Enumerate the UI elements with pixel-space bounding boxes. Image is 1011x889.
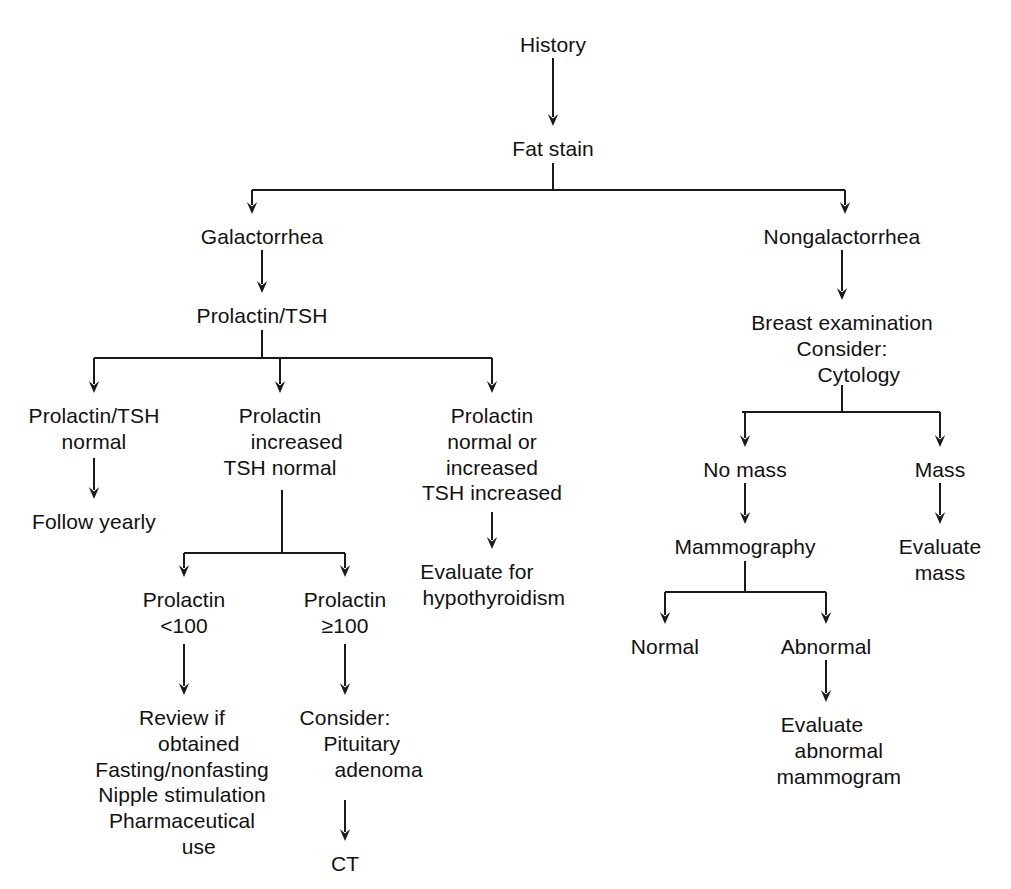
node-review-if-obtained-line-4: Pharmaceutical [95, 808, 268, 834]
node-mass-line-0: Mass [915, 457, 966, 483]
to-prolactin-tsh-normal [89, 358, 99, 393]
mass-to-evaluate-mass-head [935, 512, 945, 524]
node-consider-pituitary-adenoma-line-2: adenoma [267, 757, 422, 783]
history-to-fat-stain [548, 58, 558, 126]
node-mass: Mass [915, 457, 966, 483]
node-prolactin-increased-line-2: TSH normal [217, 455, 343, 481]
node-fat-stain-line-0: Fat stain [512, 136, 593, 162]
fat-stain-to-galactorrhea-head [247, 202, 257, 214]
node-history-line-0: History [520, 32, 586, 58]
fat-stain-to-nongalactorrhea-head [840, 202, 850, 214]
prolactin-normal-to-evaluate-hypothyroidism-head [487, 537, 497, 549]
prolactin-ge-100-to-consider-head [340, 683, 350, 695]
node-review-if-obtained-line-2: Fasting/nonfasting [95, 757, 268, 783]
node-prolactin-increased-line-0: Prolactin [217, 403, 343, 429]
abnormal-to-evaluate-abnormal-mammogram-head [821, 690, 831, 702]
node-evaluate-abnormal-mammogram: Evaluateabnormalmammogram [743, 712, 901, 789]
abnormal-to-evaluate-abnormal-mammogram [821, 660, 831, 702]
node-prolactin-increased: ProlactinincreasedTSH normal [217, 403, 343, 480]
node-consider-pituitary-adenoma-line-0: Consider: [267, 705, 422, 731]
history-to-fat-stain-head [548, 114, 558, 126]
to-prolactin-tsh-normal-head [89, 381, 99, 393]
nongalactorrhea-to-breast-exam [837, 250, 847, 300]
fat-stain-to-galactorrhea [247, 190, 257, 214]
to-prolactin-normal-or-increased [487, 358, 497, 393]
node-follow-yearly: Follow yearly [32, 509, 156, 535]
to-prolactin-lt-100-head [179, 565, 189, 577]
node-breast-exam-line-0: Breast examination [751, 310, 933, 336]
to-abnormal [821, 592, 831, 624]
node-nongalactorrhea-line-0: Nongalactorrhea [764, 224, 921, 250]
no-mass-to-mammography-head [740, 512, 750, 524]
to-abnormal-head [821, 612, 831, 624]
node-prolactin-increased-line-1: increased [217, 429, 343, 455]
prolactin-tsh-normal-to-follow-yearly [89, 458, 99, 499]
to-no-mass [740, 412, 750, 447]
node-consider-pituitary-adenoma-line-1: Pituitary [267, 731, 422, 757]
to-mass [935, 412, 945, 447]
node-prolactin-normal-or-increased-line-0: Prolactin [422, 403, 562, 429]
node-prolactin-ge-100-line-1: ≥100 [304, 613, 387, 639]
consider-to-ct-head [340, 829, 350, 841]
to-normal [660, 592, 670, 624]
prolactin-lt-100-to-review-head [179, 683, 189, 695]
node-review-if-obtained: Review ifobtainedFasting/nonfastingNippl… [95, 705, 268, 860]
fat-stain-to-nongalactorrhea [840, 190, 850, 214]
prolactin-lt-100-to-review [179, 644, 189, 695]
node-prolactin-normal-or-increased-line-2: increased [422, 455, 562, 481]
nongalactorrhea-to-breast-exam-head [837, 288, 847, 300]
prolactin-tsh-normal-to-follow-yearly-head [89, 487, 99, 499]
node-breast-exam-line-1: Consider: [751, 336, 933, 362]
node-history: History [520, 32, 586, 58]
node-prolactin-tsh-normal-line-0: Prolactin/TSH [29, 403, 160, 429]
node-review-if-obtained-line-3: Nipple stimulation [95, 782, 268, 808]
node-prolactin-tsh-normal-line-1: normal [29, 429, 160, 455]
to-no-mass-head [740, 435, 750, 447]
to-prolactin-ge-100-head [340, 565, 350, 577]
node-galactorrhea: Galactorrhea [201, 224, 324, 250]
prolactin-ge-100-to-consider [340, 644, 350, 695]
node-review-if-obtained-line-0: Review if [95, 705, 268, 731]
node-evaluate-hypothyroidism: Evaluate forhypothyroidism [389, 559, 565, 611]
node-normal-line-0: Normal [631, 634, 699, 660]
to-mass-head [935, 435, 945, 447]
node-prolactin-lt-100: Prolactin<100 [143, 587, 226, 639]
to-normal-head [660, 612, 670, 624]
node-prolactin-normal-or-increased-line-1: normal or [422, 429, 562, 455]
node-prolactin-lt-100-line-0: Prolactin [143, 587, 226, 613]
node-prolactin-ge-100: Prolactin≥100 [304, 587, 387, 639]
node-evaluate-abnormal-mammogram-line-2: mammogram [743, 764, 901, 790]
node-prolactin-lt-100-line-1: <100 [143, 613, 226, 639]
node-prolactin-normal-or-increased: Prolactinnormal orincreasedTSH increased [422, 403, 562, 506]
node-breast-exam-line-2: Cytology [751, 362, 933, 388]
to-prolactin-lt-100 [179, 553, 189, 577]
to-prolactin-normal-or-increased-head [487, 381, 497, 393]
node-mammography-line-0: Mammography [674, 534, 815, 560]
galactorrhea-to-prolactin-tsh-head [257, 281, 267, 293]
node-consider-pituitary-adenoma: Consider:Pituitaryadenoma [267, 705, 422, 782]
node-no-mass-line-0: No mass [703, 457, 787, 483]
consider-to-ct [340, 800, 350, 841]
node-evaluate-mass-line-0: Evaluate [899, 534, 982, 560]
node-evaluate-mass: Evaluatemass [899, 534, 982, 586]
node-no-mass: No mass [703, 457, 787, 483]
node-mammography: Mammography [674, 534, 815, 560]
node-evaluate-abnormal-mammogram-line-0: Evaluate [743, 712, 901, 738]
node-evaluate-abnormal-mammogram-line-1: abnormal [743, 738, 901, 764]
node-evaluate-hypothyroidism-line-1: hypothyroidism [389, 585, 565, 611]
node-abnormal-line-0: Abnormal [781, 634, 872, 660]
node-ct: CT [331, 851, 359, 877]
node-evaluate-mass-line-1: mass [899, 560, 982, 586]
prolactin-normal-to-evaluate-hypothyroidism [487, 512, 497, 549]
node-ct-line-0: CT [331, 851, 359, 877]
to-prolactin-ge-100 [340, 553, 350, 577]
node-nongalactorrhea: Nongalactorrhea [764, 224, 921, 250]
to-prolactin-increased [275, 358, 285, 393]
node-prolactin-normal-or-increased-line-3: TSH increased [422, 480, 562, 506]
node-evaluate-hypothyroidism-line-0: Evaluate for [389, 559, 565, 585]
node-follow-yearly-line-0: Follow yearly [32, 509, 156, 535]
node-prolactin-ge-100-line-0: Prolactin [304, 587, 387, 613]
node-prolactin-tsh: Prolactin/TSH [197, 303, 328, 329]
node-galactorrhea-line-0: Galactorrhea [201, 224, 324, 250]
node-normal: Normal [631, 634, 699, 660]
